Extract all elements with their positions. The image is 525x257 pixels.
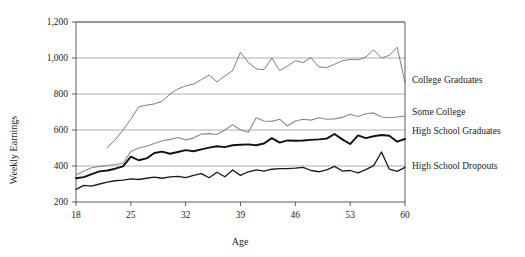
series-label-some-college: Some College (412, 107, 466, 117)
x-tick-labels: 18253239465360 (71, 210, 410, 220)
y-tick-label: 1,000 (47, 53, 69, 63)
x-tick-label: 32 (181, 210, 191, 220)
y-tick-label: 400 (54, 161, 69, 171)
x-tick-label: 60 (400, 210, 410, 220)
series-line-college-graduates (107, 47, 405, 147)
x-tick-label: 18 (71, 210, 81, 220)
y-tick-label: 600 (54, 125, 69, 135)
x-tick-label: 25 (126, 210, 136, 220)
y-tick-label: 200 (54, 197, 69, 207)
series-line-high-school-dropouts (76, 152, 405, 189)
plot-axes (72, 22, 405, 206)
data-series-group (76, 47, 405, 189)
chart-container: 2004006008001,0001,200 18253239465360 Co… (0, 0, 525, 257)
x-tick-label: 46 (291, 210, 301, 220)
x-tick-label: 53 (345, 210, 355, 220)
y-tick-label: 800 (54, 89, 69, 99)
y-tick-labels: 2004006008001,0001,200 (47, 17, 69, 207)
series-label-college-graduates: College Graduates (412, 75, 483, 85)
x-axis-title: Age (232, 236, 249, 247)
series-label-high-school-dropouts: High School Dropouts (412, 161, 498, 171)
series-inline-labels: College GraduatesSome CollegeHigh School… (412, 75, 501, 171)
series-label-high-school-graduates: High School Graduates (412, 126, 501, 136)
weekly-earnings-line-chart: 2004006008001,0001,200 18253239465360 Co… (0, 0, 525, 257)
x-tick-label: 39 (236, 210, 246, 220)
y-axis-title: Weekly Earnings (8, 116, 19, 184)
y-tick-label: 1,200 (47, 17, 69, 27)
